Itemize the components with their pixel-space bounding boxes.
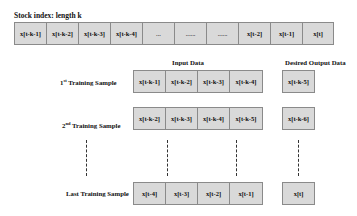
input-cell: x[t-k-4] (229, 70, 263, 93)
sequence-cell: ... (142, 22, 175, 45)
input-cell: x[t-2] (197, 182, 230, 205)
continuation-dash (298, 140, 299, 176)
input-cell: x[t-k-2] (165, 70, 198, 93)
continuation-dash (167, 140, 168, 176)
input-cell: x[t-4] (133, 182, 166, 205)
continuation-dash (86, 140, 87, 176)
sequence-cell: x[t-k-1] (14, 22, 47, 45)
sequence-title: Stock index: length k (14, 11, 82, 20)
sample-label-last: Last Training Sample (66, 190, 129, 197)
sample-label-1: 1st Training Sample (60, 78, 117, 86)
output-data-header: Desired Output Data (285, 59, 346, 66)
input-cell: x[t-k-3] (197, 70, 230, 93)
input-data-header: Input Data (172, 59, 204, 66)
sample-label-2: 2nd Training Sample (62, 121, 120, 129)
sequence-cell: x[t-2] (238, 22, 271, 45)
input-cell: x[t-1] (229, 182, 263, 205)
label-text: Last Training Sample (66, 190, 129, 197)
output-cell: x[t] (282, 182, 315, 205)
output-cell: x[t-k-6] (282, 107, 315, 130)
sequence-cell: ...... (206, 22, 239, 45)
input-cell: x[t-k-1] (133, 70, 166, 93)
input-cell: x[t-k-4] (197, 107, 230, 130)
label-text: Training Sample (70, 122, 120, 129)
continuation-dash (236, 140, 237, 176)
sequence-cell: ...... (174, 22, 207, 45)
sequence-cell: x[t-1] (270, 22, 303, 45)
input-cell: x[t-k-5] (229, 107, 263, 130)
input-cell: x[t-k-3] (165, 107, 198, 130)
sequence-cell: x[t-k-3] (78, 22, 111, 45)
sequence-cell: x[t-k-2] (46, 22, 79, 45)
output-cell: x[t-k-5] (282, 70, 315, 93)
sequence-cell: x[t] (302, 22, 334, 45)
input-cell: x[t-k-2] (133, 107, 166, 130)
input-cell: x[t-3] (165, 182, 198, 205)
label-text: Training Sample (67, 79, 117, 86)
sequence-cell: x[t-k-4] (110, 22, 143, 45)
